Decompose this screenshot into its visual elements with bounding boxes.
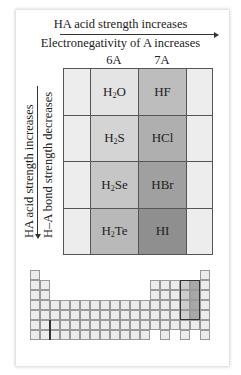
element-cell [200, 300, 210, 310]
element-cell [200, 330, 210, 340]
element-cell [200, 290, 210, 300]
element-cell [30, 320, 40, 330]
element-cell [100, 300, 110, 310]
top-sub-label: Electronegativity of A increases [0, 36, 241, 51]
formula-7a: HBr [151, 177, 173, 193]
element-cell [50, 320, 60, 330]
element-cell [70, 300, 80, 310]
element-cell [120, 310, 130, 320]
element-cell [70, 320, 80, 330]
element-cell [30, 280, 40, 290]
formula-6a: H2S [104, 130, 125, 146]
element-cell [140, 330, 150, 340]
element-cell [50, 300, 60, 310]
element-cell [80, 310, 90, 320]
element-cell [50, 330, 60, 340]
column-header-7a: 7A [138, 53, 186, 68]
cell-7a: HCl [138, 115, 187, 163]
element-cell [60, 330, 70, 340]
element-cell [70, 310, 80, 320]
element-cell [110, 300, 120, 310]
element-cell [130, 310, 140, 320]
element-cell [80, 300, 90, 310]
formula-6a: H2Te [101, 223, 127, 239]
block-divider [49, 320, 51, 340]
side-cell-left [63, 208, 91, 256]
cell-6a: H2O [90, 68, 139, 116]
element-cell [160, 330, 170, 340]
cell-6a: H2Se [90, 161, 139, 209]
element-cell [160, 280, 170, 290]
element-cell [150, 290, 160, 300]
cell-7a: HF [138, 68, 187, 116]
formula-6a: H2Se [101, 177, 127, 193]
right-arrow-icon [60, 34, 215, 35]
element-cell [30, 310, 40, 320]
element-cell [200, 270, 210, 280]
element-cell [60, 310, 70, 320]
top-arrow-label: HA acid strength increases [0, 17, 241, 32]
element-cell [80, 320, 90, 330]
side-cell-right [186, 208, 213, 256]
element-cell [60, 300, 70, 310]
formula-6a: H2O [103, 84, 126, 100]
column-header-6a: 6A [90, 53, 138, 68]
element-cell [130, 330, 140, 340]
element-cell [150, 320, 160, 330]
element-cell [100, 320, 110, 330]
element-cell [110, 320, 120, 330]
element-cell [30, 330, 40, 340]
side-cell-left [63, 68, 91, 116]
cell-7a: HBr [138, 161, 187, 209]
element-cell [30, 270, 40, 280]
side-cell-right [186, 161, 213, 209]
element-cell [200, 310, 210, 320]
element-cell [150, 300, 160, 310]
element-cell [200, 280, 210, 290]
formula-7a: HCl [152, 130, 174, 146]
side-cell-right [186, 115, 213, 163]
element-cell [130, 320, 140, 330]
element-cell [150, 310, 160, 320]
element-cell [110, 310, 120, 320]
cell-7a: HI [138, 208, 187, 256]
element-cell [160, 290, 170, 300]
element-cell [90, 320, 100, 330]
element-cell [120, 320, 130, 330]
element-cell [160, 310, 170, 320]
element-cell [120, 330, 130, 340]
element-cell [160, 320, 170, 330]
cell-6a: H2Te [90, 208, 139, 256]
element-cell [160, 300, 170, 310]
element-cell [100, 330, 110, 340]
side-cell-left [63, 161, 91, 209]
side-cell-left [63, 115, 91, 163]
element-cell [30, 300, 40, 310]
element-cell [80, 330, 90, 340]
element-cell [40, 300, 50, 310]
element-cell [40, 310, 50, 320]
element-cell [150, 280, 160, 290]
left-arrow-label: HA acid strength increases [22, 104, 37, 238]
element-cell [30, 290, 40, 300]
highlight-box [180, 280, 200, 320]
formula-7a: HI [156, 223, 170, 239]
element-cell [40, 290, 50, 300]
element-cell [170, 310, 180, 320]
cell-6a: H2S [90, 115, 139, 163]
element-cell [200, 320, 210, 330]
element-cell [140, 320, 150, 330]
element-cell [170, 290, 180, 300]
element-cell [90, 330, 100, 340]
formula-7a: HF [154, 84, 171, 100]
element-cell [40, 280, 50, 290]
side-cell-right [186, 68, 213, 116]
element-cell [70, 330, 80, 340]
element-cell [140, 310, 150, 320]
element-cell [110, 330, 120, 340]
element-cell [90, 300, 100, 310]
element-cell [100, 310, 110, 320]
element-cell [170, 300, 180, 310]
element-cell [140, 300, 150, 310]
element-cell [120, 300, 130, 310]
